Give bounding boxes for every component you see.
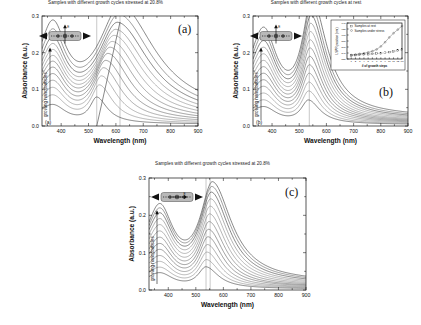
y-tick-label: 0.3 xyxy=(243,13,250,19)
x-tick-label: 800 xyxy=(376,128,385,134)
y-tick-label: 0.2 xyxy=(139,212,146,218)
panel-c-plot: 4005006007008009000.00.10.20.3Wavelength… xyxy=(105,161,320,325)
x-axis-label: Wavelength (nm) xyxy=(304,137,357,145)
inset-x-axis-label: # of growth steps xyxy=(362,64,388,68)
panel-a: Samples with different growth cycles str… xyxy=(0,0,211,160)
x-tick-label: 500 xyxy=(295,128,304,134)
inset-legend-label: Samples at rest xyxy=(354,24,376,28)
y-axis-label: Absorbance (a.u.) xyxy=(232,43,240,99)
growth-arrow-head xyxy=(259,48,263,52)
inset-y-tick: 520 xyxy=(342,58,347,61)
y-tick-label: 0.0 xyxy=(139,287,146,293)
x-tick-label: 400 xyxy=(268,128,277,134)
inset-y-tick: 620 xyxy=(342,28,347,31)
x-tick-label: 800 xyxy=(166,128,175,134)
x-tick-label: 600 xyxy=(322,128,331,134)
panel-b-letter: (b) xyxy=(379,85,393,99)
panel-c-letter: (c) xyxy=(285,185,298,199)
x-tick-label: 400 xyxy=(164,292,173,298)
field-label: E xyxy=(184,192,186,196)
growing-nanoparticles-label: growing nanoparticles xyxy=(254,72,259,117)
panel-b-inset: 12345678910111213520540560580600620640# … xyxy=(331,20,405,70)
x-tick-label: 700 xyxy=(349,128,358,134)
x-tick-label: 500 xyxy=(191,292,200,298)
spectrum-curve xyxy=(149,229,306,284)
inset-y-tick: 560 xyxy=(342,46,347,49)
inset-y-tick: 540 xyxy=(342,52,347,55)
panel-c: Samples with different growth cycles str… xyxy=(105,161,320,325)
y-tick-label: 0.0 xyxy=(243,123,250,129)
panel-a-plot: 4005006007008009000.00.10.20.3Wavelength… xyxy=(0,0,211,160)
panel-b-plot: 4005006007008009000.00.10.20.3Wavelength… xyxy=(211,0,421,160)
nanorod-schematic-horizontal-field: E xyxy=(151,192,203,201)
panel-corner-label: (b) xyxy=(256,119,262,125)
x-axis-label: Wavelength (nm) xyxy=(201,301,254,309)
growing-nanoparticles-label: growing nanoparticles xyxy=(150,236,155,281)
field-label: E xyxy=(67,25,69,29)
inset-y-axis-label: LSPR position (nm) xyxy=(335,28,339,55)
y-tick-label: 0.3 xyxy=(139,175,146,181)
field-label: E xyxy=(278,25,280,29)
x-tick-label: 400 xyxy=(57,128,66,134)
y-tick-label: 0.1 xyxy=(32,86,39,92)
x-tick-label: 500 xyxy=(84,128,93,134)
x-tick-label: 900 xyxy=(404,128,413,134)
y-tick-label: 0.2 xyxy=(243,50,250,56)
x-tick-label: 900 xyxy=(194,128,203,134)
panel-b: Samples with different growth cycles at … xyxy=(211,0,421,160)
y-tick-label: 0.1 xyxy=(139,250,146,256)
y-tick-label: 0.3 xyxy=(32,13,39,19)
x-tick-label: 700 xyxy=(247,292,256,298)
y-tick-label: 0.0 xyxy=(32,123,39,129)
growing-nanoparticles-label: growing nanoparticles xyxy=(43,72,48,117)
x-tick-label: 600 xyxy=(219,292,228,298)
y-tick-label: 0.2 xyxy=(32,50,39,56)
spectrum-curve xyxy=(253,100,408,124)
inset-legend-label: Samples under stress xyxy=(354,29,384,33)
y-axis-label: Absorbance (a.u.) xyxy=(21,43,29,99)
x-tick-label: 800 xyxy=(274,292,283,298)
y-axis-label: Absorbance (a.u.) xyxy=(128,206,136,262)
x-tick-label: 700 xyxy=(139,128,148,134)
panel-corner-label: (a) xyxy=(45,119,51,125)
x-axis-label: Wavelength (nm) xyxy=(94,137,147,145)
y-tick-label: 0.1 xyxy=(243,86,250,92)
nanorod-schematic-vertical-field: E xyxy=(39,25,91,44)
inset-y-tick: 640 xyxy=(342,22,347,25)
inset-y-tick: 600 xyxy=(342,34,347,37)
inset-y-tick: 580 xyxy=(342,40,347,43)
panel-a-letter: (a) xyxy=(178,22,191,36)
x-tick-label: 600 xyxy=(112,128,121,134)
x-tick-label: 900 xyxy=(302,292,311,298)
